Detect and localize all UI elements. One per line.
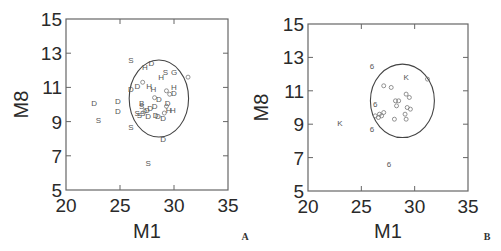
y-tick-label: 11 bbox=[284, 81, 304, 102]
data-point-letter: H bbox=[151, 85, 157, 94]
y-tick-label: 15 bbox=[41, 9, 62, 30]
y-tick-label: 9 bbox=[293, 114, 304, 135]
data-point-circle bbox=[408, 107, 412, 111]
y-tick-label: 13 bbox=[41, 43, 62, 64]
scatter-panel-a: 20253035579111315M1M8SHDSGHDDHHHDDSDDSBS… bbox=[10, 9, 249, 242]
data-point-letter: D bbox=[145, 112, 151, 121]
data-point-letter: H bbox=[142, 63, 148, 72]
y-tick-label: 15 bbox=[283, 14, 304, 35]
y-tick-label: 11 bbox=[42, 77, 62, 98]
data-point-letter: D bbox=[160, 114, 166, 123]
data-point-letter: D bbox=[148, 59, 154, 68]
x-axis-label: M1 bbox=[374, 220, 402, 242]
data-point-letter: D bbox=[115, 97, 121, 106]
data-point-circle bbox=[407, 95, 411, 99]
data-point-letter: 6 bbox=[370, 62, 375, 71]
data-point-letter: 6 bbox=[373, 100, 378, 109]
data-point-letter: 6 bbox=[370, 125, 375, 134]
y-axis-label: M8 bbox=[250, 94, 272, 122]
y-tick-label: 5 bbox=[293, 181, 304, 202]
x-axis-label: M1 bbox=[133, 220, 161, 242]
data-point-letter: 6 bbox=[387, 160, 392, 169]
x-tick-label: 35 bbox=[217, 195, 238, 216]
data-point-letter: D bbox=[134, 82, 140, 91]
x-tick-label: 35 bbox=[457, 196, 478, 217]
data-point-letter: D bbox=[160, 135, 166, 144]
data-point-letter: D bbox=[128, 85, 134, 94]
y-tick-label: 7 bbox=[293, 148, 304, 169]
data-point-circle bbox=[373, 114, 377, 118]
data-point-letter: H bbox=[170, 106, 176, 115]
confidence-ellipse bbox=[370, 64, 434, 137]
data-point-letter: D bbox=[91, 99, 97, 108]
data-point-circle bbox=[186, 75, 190, 79]
data-point-letter: G bbox=[171, 68, 177, 77]
data-point-circle bbox=[403, 112, 407, 116]
data-point-letter: D bbox=[171, 89, 177, 98]
data-point-circle bbox=[164, 89, 168, 93]
figure: 20253035579111315M1M8SHDSGHDDHHHDDSDDSBS… bbox=[0, 0, 501, 251]
x-tick-label: 30 bbox=[404, 196, 425, 217]
x-tick-label: 30 bbox=[163, 195, 184, 216]
data-point-circle bbox=[389, 85, 393, 89]
y-tick-label: 13 bbox=[283, 47, 304, 68]
data-point-circle bbox=[382, 84, 386, 88]
data-point-circle bbox=[404, 117, 408, 121]
data-point-letter: K bbox=[403, 73, 409, 82]
data-point-circle bbox=[141, 80, 145, 84]
y-tick-label: 7 bbox=[51, 146, 62, 167]
data-point-letter: S bbox=[145, 159, 150, 168]
data-point-letter: H bbox=[158, 73, 164, 82]
x-tick-label: 25 bbox=[109, 195, 130, 216]
data-point-circle bbox=[392, 117, 396, 121]
data-point-letter: K bbox=[337, 119, 343, 128]
data-point-circle bbox=[395, 104, 399, 108]
scatter-panel-b: 20253035579111315M1M86K6K66B bbox=[250, 14, 491, 242]
x-tick-label: 25 bbox=[351, 196, 372, 217]
y-tick-label: 5 bbox=[51, 180, 62, 201]
data-point-letter: S bbox=[128, 123, 133, 132]
data-point-letter: D bbox=[115, 107, 121, 116]
data-point-circle bbox=[404, 92, 408, 96]
data-point-letter: S bbox=[128, 56, 133, 65]
y-tick-label: 9 bbox=[51, 112, 62, 133]
data-point-letter: S bbox=[96, 116, 101, 125]
y-axis-label: M8 bbox=[10, 91, 32, 119]
panel-label: A bbox=[241, 231, 249, 242]
panel-label: B bbox=[484, 231, 491, 242]
